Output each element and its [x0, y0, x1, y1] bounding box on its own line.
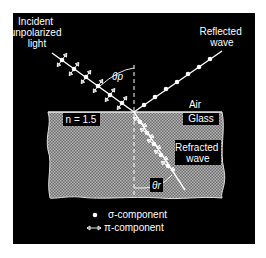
- sigma-legend-dot: [93, 213, 98, 218]
- air-label: Air: [189, 99, 202, 110]
- pi-legend-label: π-component: [104, 222, 164, 233]
- n-value-label: n = 1.5: [66, 114, 97, 125]
- brewster-angle-diagram: Incident unpolarized light Reflected wav…: [0, 0, 266, 258]
- theta-p-label: θp: [112, 71, 123, 82]
- glass-label: Glass: [188, 113, 214, 124]
- sigma-legend-label: σ-component: [108, 209, 167, 220]
- theta-r-label: θr: [152, 180, 161, 191]
